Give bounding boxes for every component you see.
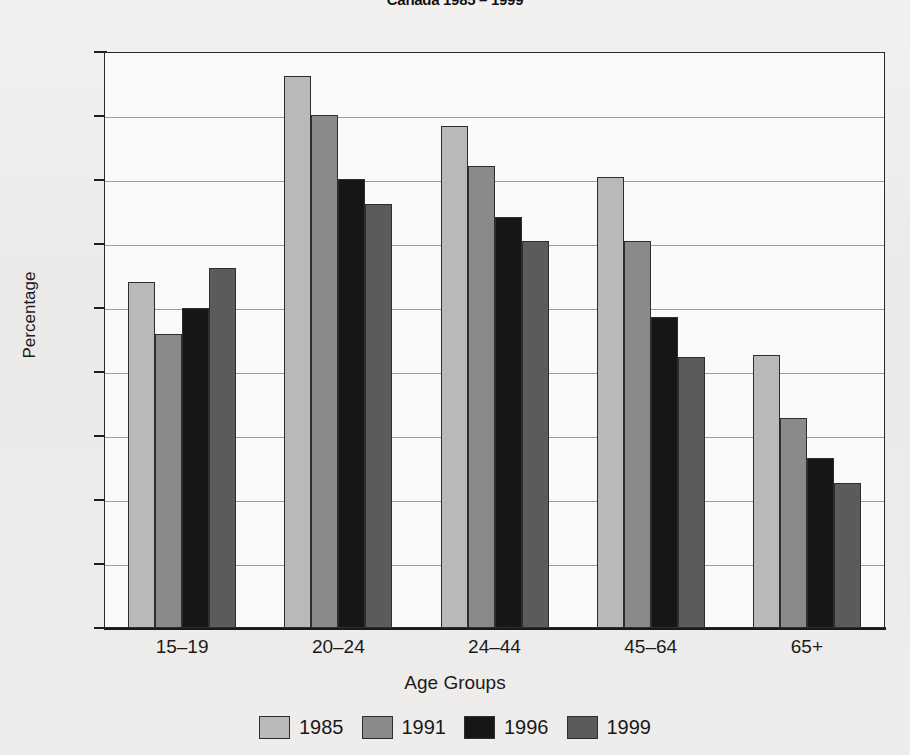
bar-group bbox=[753, 52, 861, 628]
bar[interactable] bbox=[155, 334, 182, 628]
legend-label: 1996 bbox=[504, 716, 549, 739]
bar[interactable] bbox=[182, 308, 209, 628]
x-tick-label: 45–64 bbox=[576, 636, 726, 658]
chart-canvas: Canada 1985 – 1999 454035302520151050 Pe… bbox=[0, 0, 910, 755]
bar[interactable] bbox=[780, 418, 807, 628]
bar[interactable] bbox=[753, 355, 780, 628]
legend-label: 1985 bbox=[299, 716, 344, 739]
legend-item[interactable]: 1996 bbox=[464, 716, 549, 739]
legend-item[interactable]: 1999 bbox=[567, 716, 652, 739]
x-tick-label: 24–44 bbox=[420, 636, 570, 658]
x-tick-label: 20–24 bbox=[263, 636, 413, 658]
bar-series-layer bbox=[104, 52, 885, 628]
bar[interactable] bbox=[597, 177, 624, 628]
bar[interactable] bbox=[834, 483, 861, 628]
legend-label: 1991 bbox=[402, 716, 447, 739]
bar[interactable] bbox=[468, 166, 495, 628]
chart-title: Canada 1985 – 1999 bbox=[0, 0, 910, 8]
bar-group bbox=[284, 52, 392, 628]
legend-swatch bbox=[259, 716, 290, 739]
bar[interactable] bbox=[311, 115, 338, 628]
legend-item[interactable]: 1985 bbox=[259, 716, 344, 739]
bar-group bbox=[597, 52, 705, 628]
legend-swatch bbox=[464, 716, 495, 739]
x-tick-label: 15–19 bbox=[107, 636, 257, 658]
bar[interactable] bbox=[495, 217, 522, 628]
legend-label: 1999 bbox=[607, 716, 652, 739]
bar[interactable] bbox=[284, 76, 311, 628]
x-axis-title: Age Groups bbox=[0, 672, 910, 694]
x-tick-label: 65+ bbox=[732, 636, 882, 658]
bar[interactable] bbox=[128, 282, 155, 628]
legend-item[interactable]: 1991 bbox=[362, 716, 447, 739]
legend-swatch bbox=[362, 716, 393, 739]
bar-group bbox=[441, 52, 549, 628]
bar[interactable] bbox=[807, 458, 834, 628]
y-axis-title: Percentage bbox=[20, 225, 40, 405]
bar[interactable] bbox=[365, 204, 392, 628]
bar[interactable] bbox=[651, 317, 678, 628]
bar-group bbox=[128, 52, 236, 628]
bar[interactable] bbox=[441, 126, 468, 628]
bar[interactable] bbox=[624, 241, 651, 628]
bar[interactable] bbox=[338, 179, 365, 628]
legend-swatch bbox=[567, 716, 598, 739]
bar[interactable] bbox=[209, 268, 236, 628]
chart-legend: 1985199119961999 bbox=[0, 716, 910, 739]
bar[interactable] bbox=[678, 357, 705, 628]
bar[interactable] bbox=[522, 241, 549, 628]
